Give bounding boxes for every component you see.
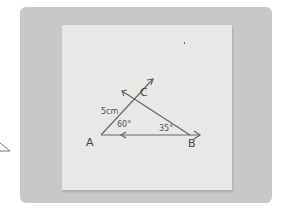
vertex-c-label: C <box>140 86 148 99</box>
angle-a-label: 60° <box>117 120 131 129</box>
angle-b-label: 35° <box>159 124 173 133</box>
triangle-construction <box>0 0 286 217</box>
side-label: 5cm <box>101 107 118 116</box>
vertex-a-label: A <box>86 136 94 149</box>
vertex-b-label: B <box>188 137 196 150</box>
